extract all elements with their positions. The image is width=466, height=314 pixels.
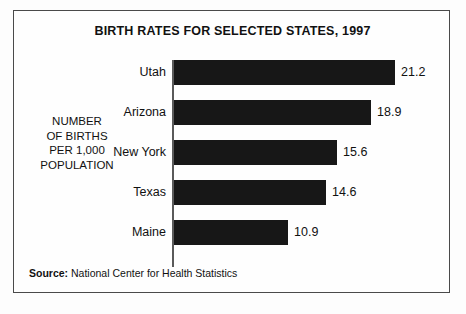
bar-row: Texas 14.6 [14, 180, 451, 205]
figure-box: BIRTH RATES FOR SELECTED STATES, 1997 NU… [13, 10, 450, 293]
bar-category-label: Utah [14, 60, 166, 85]
bar-fill [174, 100, 371, 125]
bar-track [174, 100, 371, 125]
bar-value-label: 14.6 [332, 180, 356, 205]
bar-row: Maine 10.9 [14, 220, 451, 245]
bar-row: New York 15.6 [14, 140, 451, 165]
bar-fill [174, 140, 337, 165]
bar-fill [174, 180, 326, 205]
bar-track [174, 220, 288, 245]
bar-row: Arizona 18.9 [14, 100, 451, 125]
bar-category-label: Maine [14, 220, 166, 245]
bar-track [174, 140, 337, 165]
chart-title: BIRTH RATES FOR SELECTED STATES, 1997 [14, 24, 451, 38]
plot-area: NUMBER OF BIRTHS PER 1,000 POPULATION Ut… [14, 52, 451, 252]
bar-category-label: Arizona [14, 100, 166, 125]
bar-fill [174, 220, 288, 245]
bar-track [174, 180, 326, 205]
bar-value-label: 10.9 [294, 220, 318, 245]
bar-category-label: New York [14, 140, 166, 165]
source-note: Source: National Center for Health Stati… [29, 267, 237, 279]
bar-track [174, 60, 395, 85]
bar-category-label: Texas [14, 180, 166, 205]
bar-fill [174, 60, 395, 85]
source-label: Source: [29, 267, 68, 279]
bar-row: Utah 21.2 [14, 60, 451, 85]
source-text: National Center for Health Statistics [71, 267, 237, 279]
bar-value-label: 15.6 [343, 140, 367, 165]
bar-value-label: 21.2 [401, 60, 425, 85]
page-background: BIRTH RATES FOR SELECTED STATES, 1997 NU… [0, 0, 466, 314]
bar-value-label: 18.9 [377, 100, 401, 125]
